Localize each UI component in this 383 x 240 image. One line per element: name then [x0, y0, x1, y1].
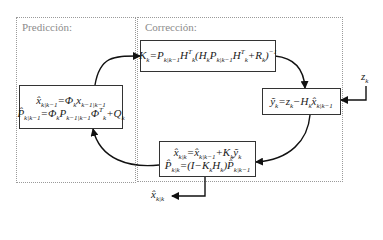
arrow-update-to-prediction: [93, 129, 159, 166]
predicted-state-equation: x̂k|k−1=Φkxk−1|k−1: [36, 94, 106, 107]
prediction-box: x̂k|k−1=Φkxk−1|k−1 P̂k|k−1=ΦkPk−1|k−1ΦTk…: [19, 85, 123, 129]
innovation-box: ỹk=zk−Hkx̂k|k−1: [262, 88, 341, 115]
update-box: x̂k|k=x̂k|k−1+Kkỹk P̂k|k=(I−KkHk)P̂k|k−1: [159, 141, 256, 177]
innovation-equation: ỹk=zk−Hkx̂k|k−1: [270, 95, 333, 108]
state-estimate-output-label: x̂k|k: [151, 188, 164, 200]
arrow-update-to-output: [172, 177, 205, 196]
arrow-gain-to-innovation: [275, 56, 305, 88]
arrow-innovation-to-update: [256, 115, 310, 162]
measurement-input-label: zk: [361, 70, 368, 82]
predicted-covariance-equation: P̂k|k−1=ΦkPk−1|k−1ΦTk+Qk: [17, 107, 124, 120]
updated-covariance-equation: P̂k|k=(I−KkHk)P̂k|k−1: [165, 159, 250, 172]
arrow-prediction-to-gain: [95, 56, 140, 85]
kalman-gain-equation: Kk=Pk|k−1HTk(HkPk|k−1HTk+Rk)−1: [139, 49, 277, 62]
arrow-measurement-to-innovation: [341, 86, 366, 100]
updated-state-equation: x̂k|k=x̂k|k−1+Kkỹk: [174, 146, 242, 159]
kalman-gain-box: Kk=Pk|k−1HTk(HkPk|k−1HTk+Rk)−1: [140, 40, 276, 72]
